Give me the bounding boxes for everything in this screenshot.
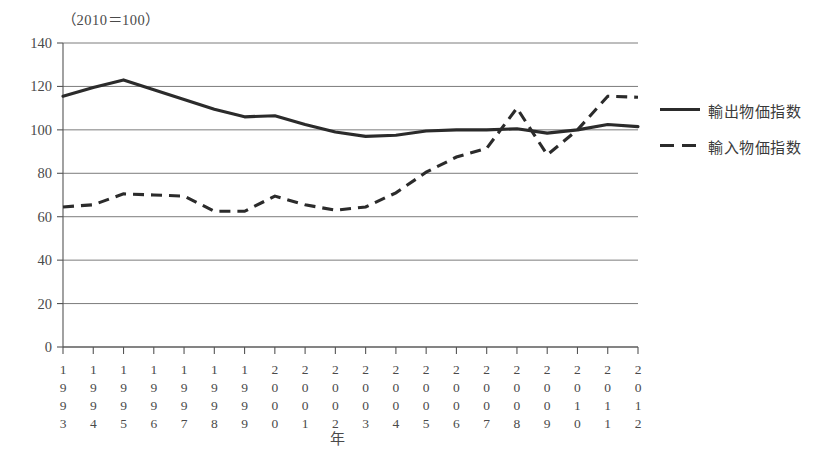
legend: 輸出物価指数 輸入物価指数 (660, 92, 820, 164)
y-axis-tick-label: 60 (12, 210, 52, 225)
x-axis-tick-label: 1998 (203, 361, 225, 433)
x-axis-tick-label: 2004 (385, 361, 407, 433)
x-axis-tick-label: 2011 (597, 361, 619, 433)
x-axis-tick-label: 2009 (536, 361, 558, 433)
y-axis-tick-label: 20 (12, 297, 52, 312)
y-axis-tick-label: 40 (12, 253, 52, 268)
x-axis-tick-label: 1999 (234, 361, 256, 433)
x-axis-tick-label: 2000 (264, 361, 286, 433)
x-axis-tick-label: 1994 (82, 361, 104, 433)
x-axis-tick-label: 2007 (476, 361, 498, 433)
x-axis-tick-label: 2012 (627, 361, 649, 433)
y-axis-tick-label: 120 (12, 79, 52, 94)
legend-label-import: 輸入物価指数 (708, 136, 801, 157)
y-axis-tick-label: 100 (12, 123, 52, 138)
legend-item-export: 輸出物価指数 (660, 92, 820, 128)
x-axis-title: 年 (330, 427, 345, 448)
y-axis-tick-label: 140 (12, 36, 52, 51)
x-axis-tick-label: 2003 (355, 361, 377, 433)
x-axis-tick-label: 2010 (566, 361, 588, 433)
y-axis-ticks (57, 43, 63, 347)
x-axis-tick-label: 2002 (324, 361, 346, 433)
series-line-export (63, 80, 638, 136)
x-axis-tick-label: 1996 (143, 361, 165, 433)
solid-line-swatch-icon (660, 103, 700, 117)
x-axis-tick-label: 1995 (113, 361, 135, 433)
series-line-import (63, 96, 638, 211)
legend-label-export: 輸出物価指数 (708, 100, 801, 121)
dashed-line-swatch-icon (660, 139, 700, 153)
x-axis-tick-label: 2008 (506, 361, 528, 433)
legend-item-import: 輸入物価指数 (660, 128, 820, 164)
x-axis-tick-label: 2006 (445, 361, 467, 433)
x-axis-tick-label: 2001 (294, 361, 316, 433)
x-axis-tick-label: 2005 (415, 361, 437, 433)
price-index-line-chart: （2010＝100） 140120100806040200 1993199419… (0, 0, 824, 458)
x-axis-tick-label: 1997 (173, 361, 195, 433)
y-axis-tick-label: 80 (12, 166, 52, 181)
x-axis-tick-label: 1993 (52, 361, 74, 433)
y-axis-tick-label: 0 (12, 340, 52, 355)
x-axis-ticks (63, 347, 638, 354)
